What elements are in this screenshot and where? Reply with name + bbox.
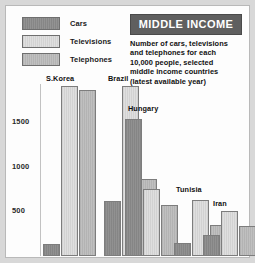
description-line-2: and telephones for each [130,48,242,57]
legend: Cars Televisions Telephones [22,15,132,69]
y-axis-line [40,84,41,256]
chart-figure: Cars Televisions Telephones MIDDLE INCOM… [0,0,255,263]
legend-swatch-telephones [22,53,60,66]
chart-description: Number of cars, televisions and telephon… [130,39,242,86]
description-line-1: Number of cars, televisions [130,39,242,48]
legend-label-televisions: Televisions [70,37,111,46]
legend-label-cars: Cars [70,19,87,28]
legend-label-telephones: Telephones [70,55,112,64]
legend-swatch-televisions [22,35,60,48]
description-line-3: 10,000 people, selected [130,58,242,67]
title-card: MIDDLE INCOME Number of cars, television… [130,14,242,86]
y-axis-tick-1500: 1500 [12,117,30,126]
legend-item-televisions: Televisions [22,33,132,49]
y-axis-tick-1000: 1000 [12,162,30,171]
legend-item-telephones: Telephones [22,51,132,67]
legend-item-cars: Cars [22,15,132,31]
description-line-4: middle income countries [130,67,242,76]
legend-swatch-cars [22,17,60,30]
chart-title-banner: MIDDLE INCOME [130,14,242,35]
y-axis-tick-500: 500 [12,206,25,215]
description-line-5: (latest available year) [130,77,242,86]
